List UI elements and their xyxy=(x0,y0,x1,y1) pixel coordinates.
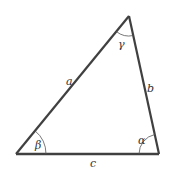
angle-arc-gamma xyxy=(116,32,133,36)
side-label-a: a xyxy=(66,75,73,88)
triangle-diagram: a b c γ β α xyxy=(0,0,174,175)
angle-label-gamma: γ xyxy=(118,38,125,51)
angle-label-beta: β xyxy=(34,139,41,152)
angle-label-alpha: α xyxy=(138,134,146,147)
side-label-c: c xyxy=(90,157,96,170)
side-label-b: b xyxy=(147,82,154,95)
